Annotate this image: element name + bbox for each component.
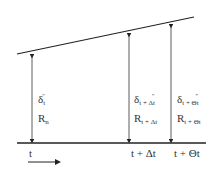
axis-label-t-theta: t + Θt bbox=[174, 148, 200, 159]
axis-label-t: t bbox=[29, 148, 32, 159]
delta-label-t-theta: δt + Θt″ bbox=[177, 93, 198, 107]
delta-label-t-dt: δt + Δt″ bbox=[134, 93, 155, 107]
r-label-t-theta: Rt + Θt bbox=[177, 113, 201, 126]
sloped-top-line bbox=[17, 17, 194, 54]
axis-label-t-dt: t + Δt bbox=[131, 148, 156, 159]
delta-label-t: δt″ bbox=[38, 93, 45, 107]
r-label-t: Rn bbox=[38, 113, 49, 126]
r-label-t-dt: Rt + Δt bbox=[134, 113, 157, 126]
